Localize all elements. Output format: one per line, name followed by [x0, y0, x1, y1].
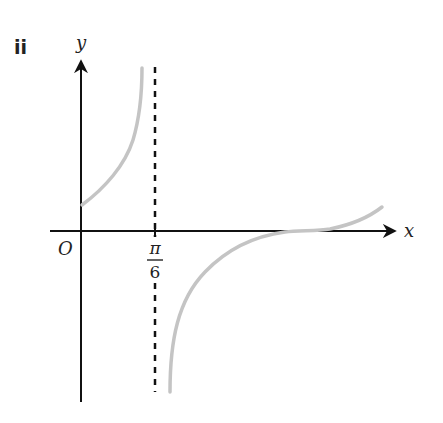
tick-numerator: π — [148, 238, 161, 258]
curve-left-branch — [82, 68, 142, 205]
graph: ii y x O π 6 — [0, 0, 443, 423]
tick-denominator: 6 — [150, 262, 161, 282]
y-axis-label: y — [75, 32, 87, 53]
curve-right-branch — [170, 207, 382, 392]
origin-label: O — [58, 238, 73, 259]
part-label: ii — [14, 36, 27, 58]
x-axis-label: x — [404, 220, 414, 241]
